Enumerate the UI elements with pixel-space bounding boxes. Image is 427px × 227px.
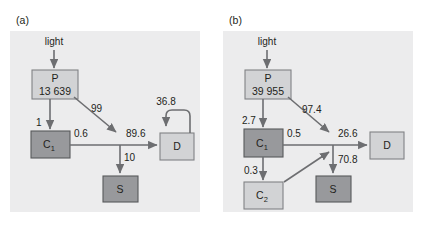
panel-b-flow-c1-junction: 0.5	[287, 128, 301, 139]
panel-b-flow-c1-c2: 0.3	[244, 165, 258, 176]
panel-b-node-d-label: D	[383, 139, 391, 151]
panel-b-node-s-label: S	[329, 183, 336, 195]
figure-container: (a) (b) light P 13 639 1 99 C1 0.6 89	[0, 0, 427, 227]
panel-b-flow-p-c1: 2.7	[242, 115, 256, 126]
panel-b-diagram: light P 39 955 2.7 97.4 C1 0.5 0.3 C2	[0, 0, 427, 227]
panel-b-light-label: light	[258, 36, 277, 47]
panel-b-flow-junction-s: 70.8	[338, 154, 358, 165]
panel-b-flow-junction-d: 26.6	[338, 128, 358, 139]
panel-b-flow-p-junction: 97.4	[302, 104, 322, 115]
panel-b-node-p-label: P	[264, 72, 271, 84]
panel-b-node-p-value: 39 955	[252, 85, 284, 97]
